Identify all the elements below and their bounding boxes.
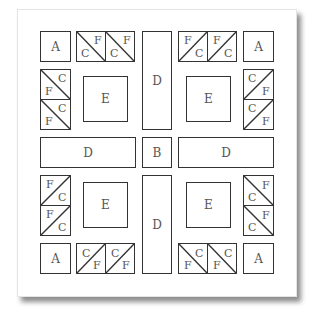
hst-bottom-left-2: C F	[105, 243, 135, 274]
piece-a-bottom-left: A	[40, 243, 71, 274]
label-c: C	[110, 48, 118, 59]
label-c: C	[248, 73, 256, 84]
label-c: C	[224, 48, 232, 59]
label-f: F	[122, 260, 130, 271]
label-c: C	[248, 222, 256, 233]
label-f: F	[184, 260, 192, 271]
piece-d-left: D	[40, 137, 136, 168]
label-c: C	[58, 192, 66, 203]
label-f: F	[45, 86, 53, 97]
hst-right-upper-1: C F	[243, 69, 274, 100]
label-c: C	[248, 192, 256, 203]
piece-e-bottom-left: E	[83, 182, 128, 228]
hst-top-left-2: C F	[105, 31, 135, 62]
label-f: F	[123, 35, 131, 46]
label-f: F	[45, 116, 53, 127]
hst-top-right-2: F C	[207, 31, 237, 62]
label-f: F	[262, 86, 270, 97]
piece-a-top-right: A	[243, 31, 274, 62]
label-f: F	[93, 260, 101, 271]
hst-left-upper-1: C F	[40, 69, 71, 100]
label-c: C	[224, 248, 232, 259]
hst-bottom-right-1: F C	[178, 243, 208, 274]
hst-right-lower-2: F C	[243, 205, 274, 236]
label-f: F	[213, 35, 221, 46]
label-c: C	[81, 48, 89, 59]
label-c: C	[111, 248, 119, 259]
label-c: C	[248, 103, 256, 114]
label-f: F	[46, 209, 54, 220]
label-c: C	[195, 48, 203, 59]
label-c: C	[58, 222, 66, 233]
hst-left-lower-2: F C	[40, 205, 71, 236]
hst-right-upper-2: C F	[243, 99, 274, 130]
hst-top-left-1: C F	[76, 31, 106, 62]
hst-left-upper-2: C F	[40, 99, 71, 130]
label-f: F	[94, 35, 102, 46]
piece-e-top-left: E	[83, 76, 128, 122]
label-f: F	[184, 35, 192, 46]
hst-bottom-left-1: C F	[76, 243, 106, 274]
hst-top-right-1: F C	[178, 31, 208, 62]
label-c: C	[82, 248, 90, 259]
hst-bottom-right-2: F C	[207, 243, 237, 274]
piece-e-bottom-right: E	[186, 182, 231, 228]
piece-a-top-left: A	[40, 31, 71, 62]
label-f: F	[46, 179, 54, 190]
label-f: F	[262, 180, 270, 191]
label-c: C	[58, 103, 66, 114]
label-f: F	[262, 116, 270, 127]
piece-b-center: B	[142, 137, 172, 168]
label-c: C	[58, 73, 66, 84]
label-f: F	[262, 210, 270, 221]
piece-d-bottom: D	[142, 175, 172, 274]
hst-left-lower-1: F C	[40, 175, 71, 206]
piece-d-top: D	[142, 31, 172, 130]
piece-a-bottom-right: A	[243, 243, 274, 274]
hst-right-lower-1: F C	[243, 175, 274, 206]
piece-d-right: D	[178, 137, 274, 168]
piece-e-top-right: E	[186, 76, 231, 122]
label-f: F	[213, 260, 221, 271]
label-c: C	[195, 248, 203, 259]
